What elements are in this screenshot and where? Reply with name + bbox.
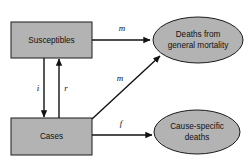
diagram-canvas: m i r m f Susceptibles Cases xyxy=(0,0,249,168)
edge-label-f: f xyxy=(120,118,124,128)
edge-label-m-cases: m xyxy=(117,73,124,83)
susceptibles-label: Susceptibles xyxy=(28,36,74,45)
edge-label-r: r xyxy=(64,83,68,93)
edge-label-m-susceptibles: m xyxy=(119,23,126,33)
edge-susceptibles-to-cases: i xyxy=(37,58,44,117)
cause-specific-deaths-ellipse[interactable] xyxy=(154,110,240,154)
edge-line xyxy=(92,56,160,119)
node-susceptibles[interactable]: Susceptibles xyxy=(11,22,92,58)
deaths-general-label-line1: Deaths from xyxy=(176,30,221,39)
edge-cases-to-susceptibles: r xyxy=(59,59,68,118)
deaths-general-label-line2: general mortality xyxy=(168,41,229,50)
node-deaths-general[interactable]: Deaths from general mortality xyxy=(153,17,243,63)
cause-specific-deaths-label-line1: Cause-specific xyxy=(170,122,224,131)
edge-label-i: i xyxy=(37,83,40,93)
edge-susceptibles-to-deaths-general: m xyxy=(92,23,150,40)
cause-specific-deaths-label-line2: deaths xyxy=(185,133,210,142)
deaths-general-ellipse[interactable] xyxy=(153,17,243,63)
node-cause-specific-deaths[interactable]: Cause-specific deaths xyxy=(154,110,240,154)
edge-cases-to-cause-specific-deaths: f xyxy=(92,118,152,135)
flow-diagram: m i r m f Susceptibles Cases xyxy=(0,0,249,168)
edge-cases-to-deaths-general: m xyxy=(92,56,160,119)
node-cases[interactable]: Cases xyxy=(11,118,92,155)
cases-label: Cases xyxy=(40,132,63,141)
